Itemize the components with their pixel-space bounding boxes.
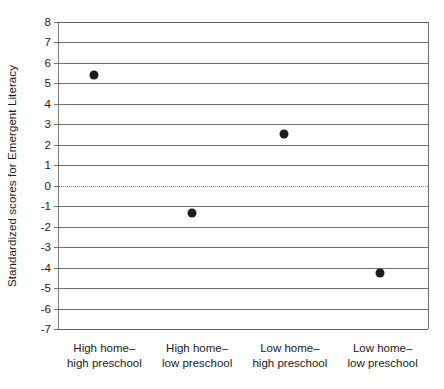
category-label-line: High home– — [73, 342, 135, 354]
y-axis-tick-label: 5 — [45, 77, 51, 89]
tick-mark — [54, 206, 59, 207]
gridline — [59, 309, 428, 310]
data-point — [376, 268, 385, 277]
gridline — [59, 104, 428, 105]
tick-mark — [54, 83, 59, 84]
tick-mark — [54, 104, 59, 105]
category-label-line: high preschool — [244, 356, 337, 371]
gridline — [59, 227, 428, 228]
y-axis-tick-label: 2 — [45, 139, 51, 151]
gridline — [59, 145, 428, 146]
category-label-line: Low home– — [353, 342, 412, 354]
y-axis-tick-label: 7 — [45, 36, 51, 48]
x-axis-category-label: Low home–high preschool — [244, 341, 337, 381]
y-axis-title-container: Standardized scores for Emergent Literac… — [0, 22, 24, 329]
category-label-line: Low home– — [260, 342, 319, 354]
y-axis-title: Standardized scores for Emergent Literac… — [6, 64, 18, 286]
tick-mark — [54, 186, 59, 187]
chart-figure: Standardized scores for Emergent Literac… — [0, 0, 444, 389]
tick-mark — [54, 42, 59, 43]
y-axis-tick-label: 3 — [45, 118, 51, 130]
gridline — [59, 165, 428, 166]
y-axis-tick-label: -2 — [41, 221, 51, 233]
category-label-line: low preschool — [336, 356, 429, 371]
tick-mark — [54, 145, 59, 146]
x-axis-category-label: Low home–low preschool — [336, 341, 429, 381]
x-axis-category-labels: High home–high preschoolHigh home–low pr… — [58, 341, 429, 381]
x-axis-category-label: High home–low preschool — [151, 341, 244, 381]
gridline — [59, 247, 428, 248]
tick-mark — [54, 268, 59, 269]
tick-mark — [54, 22, 59, 23]
gridline — [59, 268, 428, 269]
y-axis-tick-label: 0 — [45, 180, 51, 192]
tick-mark — [54, 227, 59, 228]
gridline — [59, 42, 428, 43]
y-axis-tick-label: -4 — [41, 262, 51, 274]
y-axis-tick-label: -6 — [41, 303, 51, 315]
data-point — [280, 129, 289, 138]
gridline — [59, 63, 428, 64]
y-axis-tick-label: 6 — [45, 57, 51, 69]
category-label-line: low preschool — [151, 356, 244, 371]
x-axis-category-label: High home–high preschool — [58, 341, 151, 381]
y-axis-tick-label: 8 — [45, 16, 51, 28]
gridline — [59, 124, 428, 125]
tick-mark — [54, 247, 59, 248]
tick-mark — [54, 63, 59, 64]
y-axis-tick-label: 4 — [45, 98, 51, 110]
y-axis-tick-label: -3 — [41, 241, 51, 253]
tick-mark — [54, 329, 59, 330]
gridline — [59, 288, 428, 289]
gridline — [59, 22, 428, 23]
gridline — [59, 329, 428, 330]
data-point — [90, 71, 99, 80]
category-label-line: High home– — [166, 342, 228, 354]
y-axis-tick-label: -7 — [41, 323, 51, 335]
gridline — [59, 83, 428, 84]
tick-mark — [54, 124, 59, 125]
category-label-line: high preschool — [58, 356, 151, 371]
y-axis-tick-label: 1 — [45, 159, 51, 171]
tick-mark — [54, 309, 59, 310]
zero-reference-line — [59, 186, 428, 187]
gridline — [59, 206, 428, 207]
tick-mark — [54, 288, 59, 289]
tick-mark — [54, 165, 59, 166]
plot-area: 876543210-1-2-3-4-5-6-7 — [58, 22, 429, 329]
y-axis-tick-label: -1 — [41, 200, 51, 212]
data-point — [187, 209, 196, 218]
y-axis-tick-label: -5 — [41, 282, 51, 294]
